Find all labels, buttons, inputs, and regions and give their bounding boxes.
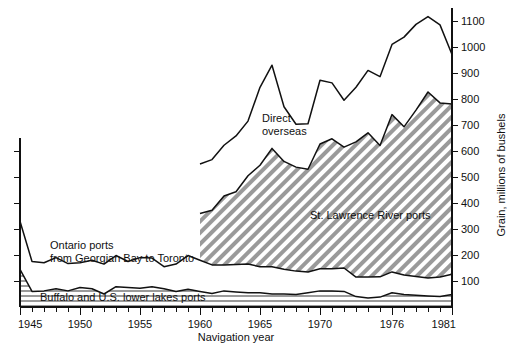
series-annotation-line: Buffalo and U.S. lower lakes ports (40, 291, 206, 303)
y-tick-label: 300 (461, 223, 479, 235)
right-axis (452, 8, 458, 307)
x-tick-label: 1976 (380, 318, 404, 330)
y-tick-label: 700 (461, 119, 479, 131)
series-annotation-line: overseas (262, 125, 307, 137)
series-annotation-line: St. Lawrence River ports (310, 209, 431, 221)
x-tick-label: 1970 (308, 318, 332, 330)
x-tick-label: 1965 (248, 318, 272, 330)
y-tick-label: 900 (461, 67, 479, 79)
y-tick-label: 100 (461, 275, 479, 287)
bottom-axis (20, 307, 452, 315)
x-tick-label: 1960 (188, 318, 212, 330)
x-tick-label: 1945 (18, 318, 42, 330)
series-annotation: Buffalo and U.S. lower lakes ports (40, 291, 206, 303)
series-annotation-line: Ontario ports (50, 239, 114, 251)
grain-shipments-chart: 10020030040050060070080090010001100 1945… (0, 0, 517, 351)
series-annotation-line: Direct (262, 112, 291, 124)
y-tick-label: 1100 (461, 15, 485, 27)
series-annotation: Directoverseas (262, 112, 307, 137)
y-axis-title: Grain, millions of bushels (495, 113, 507, 236)
x-tick-label: 1950 (68, 318, 92, 330)
y-tick-label: 1000 (461, 41, 485, 53)
y-axis-tick-labels: 10020030040050060070080090010001100 (461, 15, 485, 287)
x-tick-label: 1955 (128, 318, 152, 330)
series-annotation: Ontario portsfrom Georgian Bay to Toront… (50, 239, 194, 264)
series-annotation: St. Lawrence River ports (310, 209, 431, 221)
left-axis (14, 138, 20, 307)
x-axis-title: Navigation year (198, 331, 275, 343)
y-tick-label: 600 (461, 145, 479, 157)
y-tick-label: 800 (461, 93, 479, 105)
y-tick-label: 200 (461, 249, 479, 261)
chart-svg: 10020030040050060070080090010001100 1945… (0, 0, 517, 351)
series-annotation-line: from Georgian Bay to Toronto (50, 252, 194, 264)
x-tick-label: 1981 (432, 318, 456, 330)
y-tick-label: 400 (461, 197, 479, 209)
y-tick-label: 500 (461, 171, 479, 183)
x-axis-tick-labels: 19451950195519601965197019761981 (18, 318, 456, 330)
